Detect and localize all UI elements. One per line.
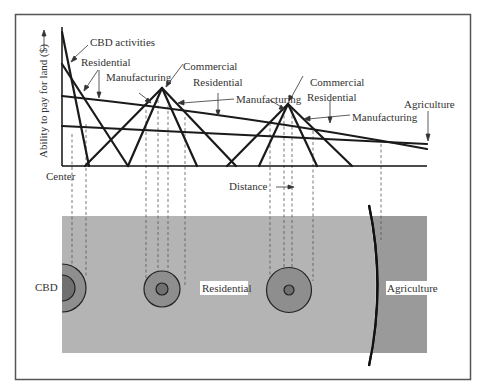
label-residential-3: Residential — [307, 91, 357, 103]
subcenter-2-inner — [284, 285, 294, 295]
origin-label: Center — [46, 170, 76, 182]
y-axis-label: Ability to pay for land ($) — [37, 44, 50, 158]
label-commercial-2: Commercial — [310, 76, 364, 88]
map-label-residential: Residential — [202, 282, 252, 294]
x-axis-label: Distance — [229, 180, 268, 192]
bid-rent-diagram: CBD Residential Agriculture — [0, 0, 483, 392]
label-residential-2: Residential — [193, 76, 243, 88]
label-manufacturing-2: Manufacturing — [236, 93, 302, 105]
label-agriculture: Agriculture — [404, 98, 455, 110]
label-residential-1: Residential — [81, 56, 131, 68]
label-cbd-activities: CBD activities — [90, 36, 155, 48]
label-manufacturing-3: Manufacturing — [352, 111, 418, 123]
label-commercial-1: Commercial — [183, 60, 237, 72]
label-manufacturing-1: Manufacturing — [106, 71, 172, 83]
subcenter-1-inner — [156, 283, 168, 295]
map-label-cbd: CBD — [35, 281, 58, 293]
map-label-agriculture: Agriculture — [387, 282, 438, 294]
